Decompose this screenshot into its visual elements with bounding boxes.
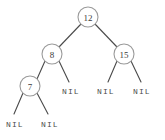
node-12[interactable]: 12 [78, 7, 98, 27]
nil-leaf-right-of-8: NIL [62, 87, 80, 96]
edge-8-to-nil [59, 61, 69, 82]
edge-12-to-8 [59, 24, 81, 47]
node-15[interactable]: 15 [114, 44, 134, 64]
node-15-label: 15 [120, 50, 130, 60]
node-8-label: 8 [50, 50, 55, 60]
edge-8-to-7 [37, 61, 45, 79]
edge-15-to-nil-left [108, 61, 117, 82]
binary-search-tree-figure: 12 8 15 7 NIL NIL NIL NIL NIL [0, 0, 165, 140]
nil-leaf-right-of-15: NIL [133, 87, 151, 96]
node-12-label: 12 [84, 13, 93, 23]
tree-edges [14, 24, 141, 114]
node-7[interactable]: 7 [20, 76, 40, 96]
tree-canvas: 12 8 15 7 [0, 0, 165, 140]
nil-leaf-right-of-7: NIL [41, 120, 59, 129]
tree-nodes: 12 8 15 7 [20, 7, 134, 96]
node-8[interactable]: 8 [42, 44, 62, 64]
edge-15-to-nil-right [131, 61, 141, 82]
edge-12-to-15 [95, 24, 117, 47]
edge-7-to-nil-right [37, 93, 48, 114]
nil-leaf-left-of-15: NIL [97, 87, 115, 96]
edge-7-to-nil-left [14, 93, 23, 114]
node-7-label: 7 [28, 82, 33, 92]
nil-leaf-left-of-7: NIL [6, 120, 24, 129]
